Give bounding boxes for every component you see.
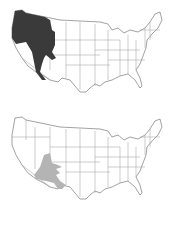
map-panel-top	[0, 0, 171, 115]
state-boundaries	[12, 120, 160, 197]
us-map-bottom	[0, 115, 171, 231]
map-panel-bottom	[0, 115, 171, 231]
us-map-top	[0, 0, 171, 115]
range-shading-bottom	[34, 153, 66, 189]
range-shading-top	[12, 10, 56, 80]
us-outline	[12, 117, 162, 199]
